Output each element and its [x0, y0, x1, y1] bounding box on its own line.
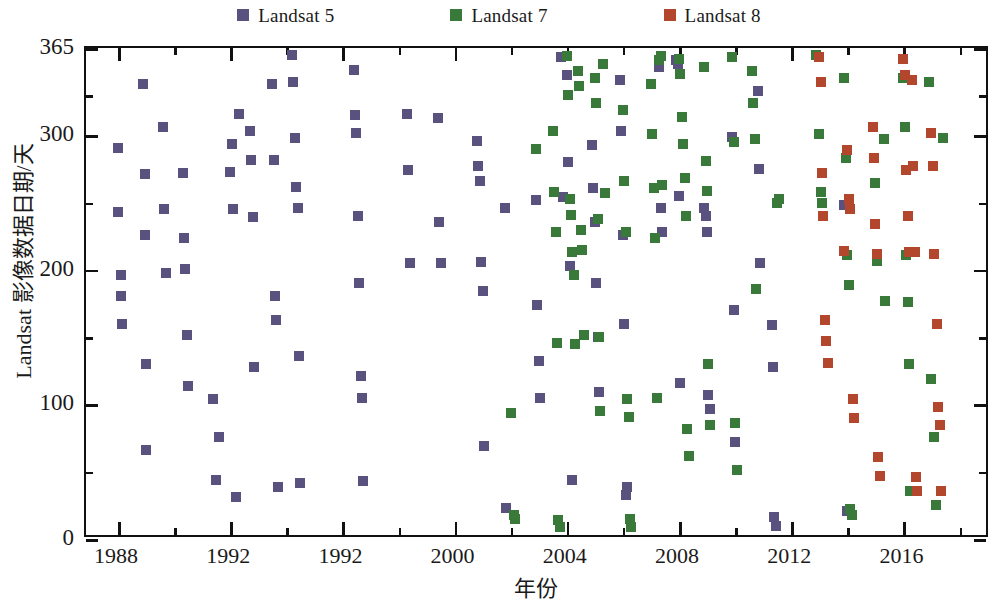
legend-item-landsat-8: Landsat 8	[664, 6, 761, 25]
data-point-landsat-8	[823, 358, 833, 368]
x-tick-mark-minor	[174, 528, 177, 535]
data-point-landsat-5	[754, 164, 764, 174]
data-point-landsat-7	[595, 406, 605, 416]
y-tick-label: 365	[14, 35, 74, 58]
data-point-landsat-8	[872, 249, 882, 259]
data-point-landsat-7	[579, 330, 589, 340]
data-point-landsat-5	[531, 195, 541, 205]
data-point-landsat-8	[870, 219, 880, 229]
data-point-landsat-5	[141, 359, 151, 369]
data-point-landsat-7	[593, 214, 603, 224]
data-point-landsat-8	[903, 211, 913, 221]
data-point-landsat-7	[677, 112, 687, 122]
data-point-landsat-5	[182, 330, 192, 340]
data-point-landsat-5	[473, 161, 483, 171]
data-point-landsat-7	[931, 500, 941, 510]
data-point-landsat-5	[771, 521, 781, 531]
data-point-landsat-8	[910, 247, 920, 257]
data-point-landsat-5	[567, 475, 577, 485]
data-point-landsat-7	[565, 194, 575, 204]
y-axis-tick-labels: 0100200300365	[0, 46, 74, 537]
legend-item-landsat-7: Landsat 7	[450, 6, 547, 25]
data-point-landsat-7	[839, 73, 849, 83]
data-point-landsat-7	[705, 420, 715, 430]
data-point-landsat-8	[912, 486, 922, 496]
data-point-landsat-5	[656, 203, 666, 213]
data-point-landsat-5	[116, 270, 126, 280]
legend-label-landsat-7: Landsat 7	[471, 6, 547, 25]
legend-swatch-landsat-7	[450, 9, 462, 21]
legend-swatch-landsat-5	[237, 9, 249, 21]
data-point-landsat-7	[900, 122, 910, 132]
data-point-landsat-7	[594, 332, 604, 342]
x-tick-mark-minor-top	[511, 48, 514, 55]
y-tick-mark	[86, 337, 93, 340]
data-point-landsat-7	[938, 133, 948, 143]
data-point-landsat-7	[747, 66, 757, 76]
data-point-landsat-5	[158, 122, 168, 132]
data-point-landsat-5	[354, 278, 364, 288]
data-point-landsat-5	[403, 165, 413, 175]
legend-label-landsat-8: Landsat 8	[685, 6, 761, 25]
landsat-acquisition-scatter-chart: Landsat 5 Landsat 7 Landsat 8 Landsat 影像…	[0, 0, 998, 608]
data-point-landsat-7	[729, 137, 739, 147]
data-point-landsat-5	[478, 286, 488, 296]
x-tick-mark-top	[118, 48, 121, 61]
data-point-landsat-5	[231, 492, 241, 502]
data-point-landsat-5	[619, 319, 629, 329]
data-point-landsat-5	[674, 191, 684, 201]
y-tick-mark-right	[974, 404, 986, 407]
x-tick-label: 1992	[188, 545, 268, 567]
data-point-landsat-5	[500, 203, 510, 213]
x-tick-label: 2016	[861, 545, 941, 567]
data-point-landsat-7	[816, 187, 826, 197]
data-point-landsat-7	[730, 418, 740, 428]
data-point-landsat-5	[138, 79, 148, 89]
data-point-landsat-5	[208, 394, 218, 404]
data-point-landsat-7	[591, 98, 601, 108]
data-point-landsat-5	[701, 211, 711, 221]
data-point-landsat-5	[562, 70, 572, 80]
x-tick-mark	[455, 522, 458, 535]
data-point-landsat-7	[566, 210, 576, 220]
data-point-landsat-7	[774, 194, 784, 204]
x-tick-mark-minor-top	[960, 48, 963, 55]
data-point-landsat-7	[702, 186, 712, 196]
data-point-landsat-7	[621, 227, 631, 237]
data-point-landsat-7	[646, 79, 656, 89]
data-point-landsat-5	[269, 155, 279, 165]
data-point-landsat-5	[295, 478, 305, 488]
data-point-landsat-5	[476, 257, 486, 267]
data-point-landsat-7	[929, 432, 939, 442]
data-point-landsat-5	[178, 168, 188, 178]
data-point-landsat-5	[293, 203, 303, 213]
legend-swatch-landsat-8	[664, 9, 676, 21]
data-point-landsat-5	[351, 128, 361, 138]
data-point-landsat-7	[647, 129, 657, 139]
data-point-landsat-5	[535, 393, 545, 403]
data-point-landsat-7	[880, 296, 890, 306]
data-point-landsat-7	[699, 62, 709, 72]
y-tick-mark	[86, 48, 98, 51]
data-point-landsat-5	[117, 319, 127, 329]
x-tick-mark-minor	[286, 528, 289, 535]
y-tick-mark	[86, 95, 93, 98]
data-point-landsat-7	[570, 339, 580, 349]
data-point-landsat-7	[600, 188, 610, 198]
data-point-landsat-8	[817, 168, 827, 178]
data-point-landsat-8	[842, 145, 852, 155]
data-point-landsat-7	[549, 187, 559, 197]
y-tick-mark-right	[979, 95, 986, 98]
data-point-landsat-7	[727, 52, 737, 62]
x-tick-mark-minor	[399, 528, 402, 535]
x-tick-label: 2000	[413, 545, 493, 567]
y-tick-mark-right	[979, 472, 986, 475]
data-point-landsat-5	[353, 211, 363, 221]
y-tick-mark	[86, 135, 98, 138]
y-tick-mark	[86, 270, 98, 273]
data-point-landsat-5	[271, 315, 281, 325]
data-point-landsat-5	[227, 139, 237, 149]
x-axis-title: 年份	[84, 578, 988, 600]
data-point-landsat-5	[563, 157, 573, 167]
data-point-landsat-7	[657, 180, 667, 190]
